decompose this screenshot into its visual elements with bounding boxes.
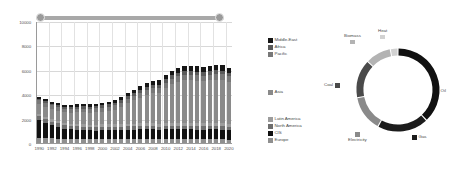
donut-slice-biomass[interactable] [371,53,391,64]
bar-column[interactable] [151,81,155,143]
donut-slice-coal[interactable] [360,64,370,96]
bar-segment [176,129,180,139]
bar-column[interactable] [56,103,60,143]
bar-column[interactable] [145,83,149,143]
bar-segment [157,93,161,124]
bar-chart-legend: Middle-EastAfricaPacificAsiaLatin Americ… [268,38,320,156]
bar-segment [126,103,130,123]
bar-segment [182,129,186,139]
bar-column[interactable] [157,80,161,143]
y-axis-line [36,22,37,144]
bar-segment [157,130,161,140]
coal-swatch [335,83,340,88]
bar-column[interactable] [138,86,142,143]
bar-column[interactable] [182,66,186,143]
donut-slice-electricity[interactable] [361,98,379,123]
donut-label-gas[interactable]: Gas [412,135,427,140]
legend-item-pacific[interactable]: Pacific [268,52,287,57]
bar-column[interactable] [220,65,224,143]
bar-segment [56,127,60,139]
bar-column[interactable] [189,66,193,143]
oil-label-text: Oil [441,89,446,93]
oil-swatch [434,89,439,94]
bar-column[interactable] [195,66,199,143]
energy-donut-chart: Oil Gas Electricity Coal Biomass Heat [330,28,463,164]
bar-column[interactable] [214,65,218,143]
bar-segment [145,129,149,139]
bar-segment [189,80,193,123]
donut-slice-gas[interactable] [380,118,423,128]
legend-item-north-america[interactable]: North America [268,124,302,129]
stacked-bar-chart [36,22,232,144]
bar-segment [195,81,199,123]
electricity-swatch [355,132,360,137]
bar-column[interactable] [107,102,111,143]
slider-selected-range [42,16,218,20]
donut-label-heat[interactable]: Heat [378,29,387,39]
bar-segment [227,130,231,139]
legend-label: Latin America [275,117,301,121]
donut-label-coal[interactable]: Coal [324,83,340,88]
bar-segment [43,107,47,117]
bar-column[interactable] [69,105,73,143]
bar-column[interactable] [176,68,180,143]
bar-column[interactable] [37,97,41,143]
bar-column[interactable] [119,97,123,143]
bar-segment [195,130,199,140]
biomass-swatch [350,40,355,45]
bar-column[interactable] [43,99,47,143]
year-range-slider[interactable] [36,13,224,22]
bar-segment [208,80,212,123]
bar-column[interactable] [208,66,212,143]
x-tick-label: 2008 [148,146,157,151]
legend-label: Middle-East [275,38,298,42]
y-axis-labels: 0200040006000800010000 [0,22,34,144]
coal-label-text: Coal [324,83,333,87]
bar-column[interactable] [75,104,79,143]
legend-label: North America [275,124,302,128]
bar-segment [220,130,224,140]
legend-item-europe[interactable]: Europe [268,138,288,143]
bar-column[interactable] [227,68,231,143]
bar-column[interactable] [113,100,117,143]
slider-handle-start[interactable] [36,13,45,22]
legend-swatch [268,90,273,95]
bar-column[interactable] [126,93,130,143]
bar-column[interactable] [164,75,168,143]
legend-item-asia[interactable]: Asia [268,90,283,95]
bar-segment [220,80,224,123]
donut-label-electricity[interactable]: Electricity [348,132,367,142]
legend-item-middle-east[interactable]: Middle-East [268,38,297,43]
bar-segment [56,111,60,121]
bar-column[interactable] [50,102,54,143]
bar-segment [151,93,155,123]
donut-slice-oil[interactable] [399,52,436,117]
bar-segment [107,111,111,125]
bar-column[interactable] [100,103,104,143]
legend-label: Asia [275,90,283,94]
plot-area [36,22,232,144]
legend-item-latin-america[interactable]: Latin America [268,117,300,122]
legend-item-africa[interactable]: Africa [268,45,285,50]
bar-column[interactable] [81,104,85,143]
bar-segment [145,95,149,123]
bar-column[interactable] [201,67,205,143]
bar-column[interactable] [94,104,98,143]
bar-segment [132,130,136,140]
legend-swatch [268,117,273,122]
donut-label-biomass[interactable]: Biomass [344,34,361,44]
bar-column[interactable] [88,104,92,143]
bar-segment [100,112,104,125]
donut-slice-heat[interactable] [391,52,397,53]
x-tick-label: 2000 [98,146,107,151]
slider-handle-end[interactable] [215,13,224,22]
legend-item-cis[interactable]: CIS [268,131,282,136]
bar-column[interactable] [62,105,66,143]
bar-column[interactable] [132,90,136,143]
x-tick-label: 2004 [123,146,132,151]
donut-ring [352,44,444,136]
bar-segment [170,129,174,139]
legend-label: Africa [275,45,286,49]
donut-label-oil[interactable]: Oil [434,89,446,94]
bar-column[interactable] [170,71,174,143]
